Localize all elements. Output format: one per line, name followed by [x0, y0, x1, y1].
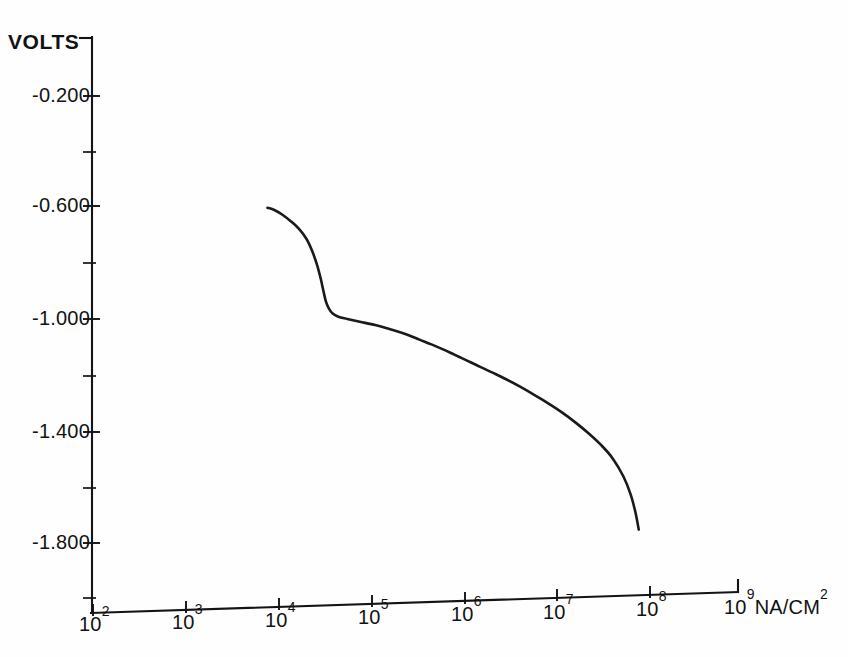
x-tick-label-7: 109NA/CM2 [724, 596, 828, 619]
x-tick-exponent-4: 6 [474, 593, 482, 609]
x-tick-exponent-6: 8 [659, 588, 667, 604]
x-tick-mantissa-7: 10 [724, 596, 747, 618]
y-axis-title: VOLTS [8, 30, 79, 54]
x-tick-exponent-2: 4 [288, 599, 296, 615]
x-tick-exponent-3: 5 [381, 596, 389, 612]
x-tick-label-5: 107 [543, 601, 574, 624]
x-tick-mantissa-2: 10 [265, 609, 288, 631]
x-axis-unit-exponent: 2 [820, 586, 828, 602]
y-tick-label-3: -1.400 [4, 420, 90, 443]
x-tick-exponent-5: 7 [566, 591, 574, 607]
x-tick-label-1: 103 [172, 611, 203, 634]
x-tick-label-4: 106 [451, 603, 482, 626]
y-tick-label-2: -1.000 [4, 307, 90, 330]
x-tick-exponent-1: 3 [195, 601, 203, 617]
x-tick-exponent-7: 9 [747, 586, 755, 602]
x-tick-label-0: 102 [79, 613, 110, 636]
x-tick-exponent-0: 2 [102, 603, 110, 619]
data-series-group [268, 208, 639, 530]
x-tick-mantissa-4: 10 [451, 603, 474, 625]
x-axis-unit-label: NA/CM2 [755, 596, 828, 618]
x-tick-mantissa-5: 10 [543, 601, 566, 623]
chart-figure: VOLTS -0.200 -0.600 -1.000 -1.400 -1.800… [0, 0, 848, 657]
x-axis-unit-text: NA/CM [755, 596, 820, 618]
x-tick-label-2: 104 [265, 609, 296, 632]
x-tick-mantissa-1: 10 [172, 611, 195, 633]
y-tick-label-0: -0.200 [4, 84, 90, 107]
x-tick-label-3: 105 [358, 606, 389, 629]
data-curve-polarization [268, 208, 639, 530]
y-tick-label-1: -0.600 [4, 194, 90, 217]
x-tick-mantissa-3: 10 [358, 606, 381, 628]
x-tick-mantissa-0: 10 [79, 613, 102, 635]
plot-canvas [0, 0, 848, 657]
x-tick-mantissa-6: 10 [636, 598, 659, 620]
y-tick-label-4: -1.800 [4, 531, 90, 554]
x-tick-label-6: 108 [636, 598, 667, 621]
